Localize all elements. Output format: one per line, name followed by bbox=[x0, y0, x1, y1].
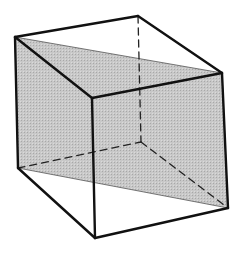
visible-edge bbox=[15, 16, 138, 37]
visible-edge bbox=[95, 208, 228, 238]
cube-diagram bbox=[0, 0, 247, 260]
